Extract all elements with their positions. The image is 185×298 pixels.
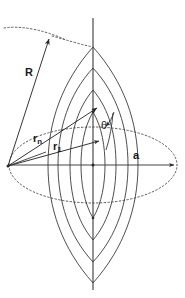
label-a: a: [133, 150, 139, 161]
outer-arc-right-dotted: [52, 36, 92, 47]
outer-dotted-arc: [4, 27, 92, 47]
diagram-canvas: R rn r1 θ a: [0, 0, 185, 298]
outer-arc-left-dotted: [4, 27, 64, 39]
label-theta: θ: [101, 120, 107, 131]
center-point-marker: [92, 164, 95, 167]
lens-1-top-vertex: [92, 111, 95, 114]
label-rn-subscript: n: [37, 137, 42, 146]
lens-coordinate-figure: [0, 0, 185, 298]
origin-point-marker: [7, 165, 10, 168]
label-rn: rn: [33, 133, 42, 146]
semi-axis-a-group: [7, 164, 175, 168]
label-r1-subscript: 1: [57, 145, 61, 154]
vector-R: [8, 39, 49, 166]
label-r1: r1: [53, 141, 62, 154]
lens-1-bottom-vertex: [92, 217, 95, 220]
label-R: R: [25, 67, 33, 78]
